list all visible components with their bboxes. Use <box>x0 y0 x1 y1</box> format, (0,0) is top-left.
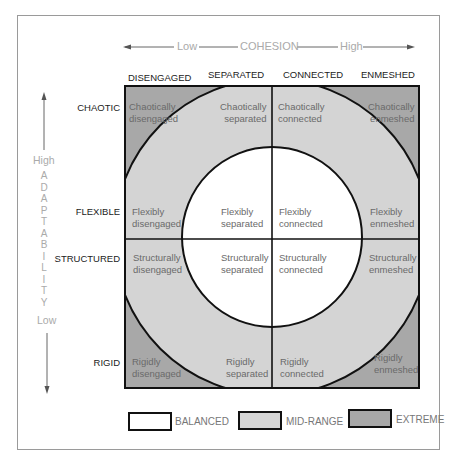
adaptability-letter: A <box>37 228 51 240</box>
row-header-flexible: FLEXIBLE <box>40 206 120 217</box>
cell-flexibly-disengaged: Flexiblydisengaged <box>132 206 181 230</box>
adaptability-low-label: Low <box>37 314 56 326</box>
cohesion-axis-title: COHESION <box>240 40 299 52</box>
cell-rigidly-enmeshed: Rigidlyenmeshed <box>374 352 418 376</box>
cohesion-high-label: High <box>340 40 363 52</box>
legend-label-balanced: BALANCED <box>175 416 229 427</box>
cell-rigidly-disengaged: Rigidlydisengaged <box>132 356 181 380</box>
legend-swatch-balanced <box>128 412 172 431</box>
adaptability-letter: I <box>37 274 51 286</box>
cell-chaotically-separated: Chaoticallyseparated <box>220 101 266 125</box>
adaptability-letter: T <box>37 216 51 228</box>
adaptability-letter: Y <box>37 297 51 309</box>
row-header-rigid: RIGID <box>40 357 120 368</box>
adaptability-letter: A <box>37 170 51 182</box>
legend-label-mid-range: MID-RANGE <box>286 416 343 427</box>
cell-flexibly-enmeshed: Flexiblyenmeshed <box>370 206 414 230</box>
legend-swatch-extreme <box>348 409 392 428</box>
row-header-structured: STRUCTURED <box>40 253 120 264</box>
cell-structurally-disengaged: Structurallydisengaged <box>133 252 182 276</box>
cell-flexibly-separated: Flexiblyseparated <box>221 206 263 230</box>
cell-structurally-connected: Structurallyconnected <box>279 252 327 276</box>
cell-structurally-enmeshed: Structurallyenmeshed <box>369 252 417 276</box>
cell-chaotically-connected: Chaoticallyconnected <box>278 101 324 125</box>
cell-structurally-separated: Structurallyseparated <box>221 252 269 276</box>
column-header-connected: CONNECTED <box>283 69 343 80</box>
column-header-enmeshed: ENMESHED <box>361 69 415 80</box>
cohesion-low-label: Low <box>177 40 197 52</box>
legend-swatch-mid-range <box>238 411 282 430</box>
adaptability-high-label: High <box>33 154 55 166</box>
adaptability-letter: L <box>37 262 51 274</box>
column-header-disengaged: DISENGAGED <box>128 72 191 83</box>
cell-chaotically-enmeshed: Chaoticallyenmeshed <box>368 101 414 125</box>
cell-rigidly-connected: Rigidlyconnected <box>280 356 324 380</box>
adaptability-letter: B <box>37 239 51 251</box>
adaptability-letter: D <box>37 182 51 194</box>
row-header-chaotic: CHAOTIC <box>40 102 120 113</box>
column-header-separated: SEPARATED <box>208 69 264 80</box>
adaptability-letter: I <box>37 251 51 263</box>
adaptability-letter: A <box>37 193 51 205</box>
cell-flexibly-connected: Flexiblyconnected <box>279 206 323 230</box>
adaptability-letter: T <box>37 285 51 297</box>
adaptability-letter: P <box>37 205 51 217</box>
legend-label-extreme: EXTREME <box>396 414 444 425</box>
cell-chaotically-disengaged: Chaoticallydisengaged <box>129 101 178 125</box>
cell-rigidly-separated: Rigidlyseparated <box>226 356 268 380</box>
